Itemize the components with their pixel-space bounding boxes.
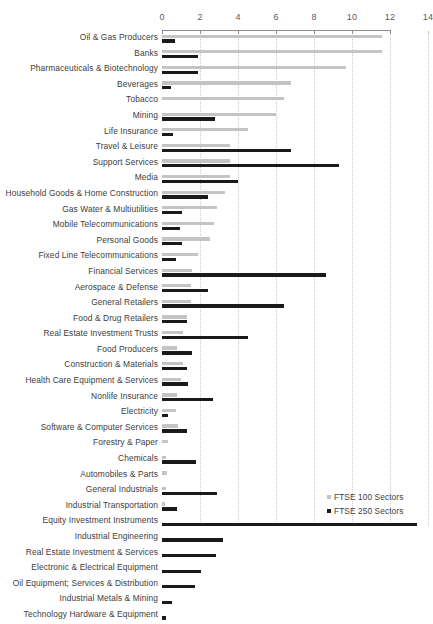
category-label: Nonlife Insurance <box>91 392 158 401</box>
bar-ftse250 <box>162 601 172 604</box>
bar-ftse250 <box>162 304 284 307</box>
chart-row: Banks <box>0 48 427 64</box>
bar-ftse100 <box>162 502 165 505</box>
bar-ftse100 <box>162 409 176 412</box>
x-axis-tick-label: 8 <box>311 12 316 22</box>
category-label: Electronic & Electrical Equipment <box>31 563 158 572</box>
bar-ftse250 <box>162 273 326 276</box>
category-label: Life Insurance <box>104 127 158 136</box>
bar-ftse100 <box>162 222 214 225</box>
chart-row: General Retailers <box>0 297 427 313</box>
chart-row: Electricity <box>0 406 427 422</box>
bar-ftse100 <box>162 191 225 194</box>
chart-row: Household Goods & Home Construction <box>0 188 427 204</box>
category-label: Banks <box>134 49 158 58</box>
bar-ftse100 <box>162 424 178 427</box>
category-label: Industrial Transportation <box>66 501 158 510</box>
bar-ftse250 <box>162 164 339 167</box>
bar-ftse100 <box>162 300 191 303</box>
bar-ftse250 <box>162 149 291 152</box>
chart-row: Personal Goods <box>0 235 427 251</box>
chart-row: Fixed Line Telecommunications <box>0 250 427 266</box>
bar-ftse250 <box>162 382 188 385</box>
chart-rows: Oil & Gas ProducersBanksPharmaceuticals … <box>0 32 427 624</box>
category-label: Forestry & Paper <box>93 438 158 447</box>
bar-ftse250 <box>162 180 238 183</box>
bar-ftse250 <box>162 570 201 573</box>
chart-row: Mining <box>0 110 427 126</box>
bar-ftse250 <box>162 336 248 339</box>
bar-ftse100 <box>162 487 166 490</box>
bar-ftse100 <box>162 81 291 84</box>
bar-ftse250 <box>162 289 208 292</box>
bar-ftse250 <box>162 117 215 120</box>
category-label: Mobile Telecommunications <box>53 220 158 229</box>
category-label: Technology Hardware & Equipment <box>24 610 158 619</box>
bar-ftse100 <box>162 237 210 240</box>
category-label: Health Care Equipment & Services <box>25 376 158 385</box>
category-label: Tobacco <box>126 95 158 104</box>
bar-ftse250 <box>162 39 175 42</box>
category-label: Household Goods & Home Construction <box>6 189 158 198</box>
x-axis-tick-label: 14 <box>423 12 433 22</box>
bar-ftse250 <box>162 367 187 370</box>
bar-ftse100 <box>162 471 167 474</box>
bar-ftse100 <box>162 97 284 100</box>
chart-row: Automobiles & Parts <box>0 469 427 485</box>
chart-row: Oil & Gas Producers <box>0 32 427 48</box>
category-label: Aerospace & Defense <box>75 283 158 292</box>
category-label: Real Estate Investment Trusts <box>43 329 158 338</box>
chart-row: Health Care Equipment & Services <box>0 375 427 391</box>
x-axis-tick-label: 4 <box>235 12 240 22</box>
bar-ftse250 <box>162 55 198 58</box>
bar-ftse100 <box>162 159 230 162</box>
x-axis-tick-label: 0 <box>159 12 164 22</box>
chart-row: Support Services <box>0 157 427 173</box>
legend-label: FTSE 100 Sectors <box>334 492 403 502</box>
category-label: Personal Goods <box>97 236 158 245</box>
bar-ftse250 <box>162 616 166 619</box>
bar-ftse100 <box>162 35 382 38</box>
bar-ftse250 <box>162 523 417 526</box>
x-axis-tick-label: 10 <box>347 12 357 22</box>
category-label: Travel & Leisure <box>96 142 158 151</box>
bar-ftse100 <box>162 206 217 209</box>
bar-ftse100 <box>162 253 198 256</box>
bar-ftse100 <box>162 456 166 459</box>
bar-ftse250 <box>162 460 196 463</box>
bar-ftse250 <box>162 585 195 588</box>
legend-item: FTSE 100 Sectors <box>327 491 403 503</box>
bar-ftse100 <box>162 269 192 272</box>
bar-ftse250 <box>162 398 213 401</box>
chart-title <box>0 0 427 11</box>
chart-row: Financial Services <box>0 266 427 282</box>
category-label: Equity Investment Instruments <box>42 516 158 525</box>
legend-item: FTSE 250 Sectors <box>327 505 403 517</box>
bar-ftse100 <box>162 440 168 443</box>
category-label: Chemicals <box>118 454 158 463</box>
category-label: Construction & Materials <box>64 360 158 369</box>
category-label: Food & Drug Retailers <box>73 314 158 323</box>
chart-row: Construction & Materials <box>0 359 427 375</box>
chart-row: Industrial Metals & Mining <box>0 593 427 609</box>
chart-row: Real Estate Investment & Services <box>0 547 427 563</box>
chart-row: Pharmaceuticals & Biotechnology <box>0 63 427 79</box>
bar-ftse250 <box>162 258 176 261</box>
bar-ftse250 <box>162 195 208 198</box>
legend-label: FTSE 250 Sectors <box>334 506 403 516</box>
chart-row: Mobile Telecommunications <box>0 219 427 235</box>
category-label: Support Services <box>93 158 158 167</box>
bar-ftse100 <box>162 331 183 334</box>
bar-ftse250 <box>162 320 187 323</box>
category-label: Industrial Metals & Mining <box>60 594 159 603</box>
bar-ftse250 <box>162 242 182 245</box>
bar-ftse250 <box>162 538 223 541</box>
bar-ftse100 <box>162 378 181 381</box>
legend-swatch <box>327 509 331 513</box>
bar-ftse100 <box>162 113 276 116</box>
x-axis: 02468101214 <box>0 12 427 34</box>
bar-ftse250 <box>162 414 168 417</box>
category-label: General Retailers <box>91 298 158 307</box>
category-label: Fixed Line Telecommunications <box>38 251 158 260</box>
